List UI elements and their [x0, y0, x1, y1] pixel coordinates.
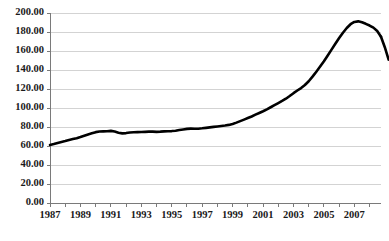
y-axis-tick-label: 20.00: [20, 177, 44, 188]
chart-container: 0.0020.0040.0060.0080.00100.00120.00140.…: [0, 0, 389, 241]
tickmarks-group: [47, 13, 370, 207]
y-axis-tick-label: 0.00: [26, 196, 44, 207]
x-axis-tick-label: 2005: [313, 209, 334, 220]
y-axis-tick-label: 140.00: [15, 63, 44, 74]
x-axis-tick-label: 1999: [222, 209, 243, 220]
x-axis-labels-group: 1987198919911993199519971999200120032005…: [40, 209, 365, 220]
y-axis-tick-label: 200.00: [15, 6, 44, 17]
y-axis-tick-label: 60.00: [20, 139, 44, 150]
x-axis-tick-label: 2007: [344, 209, 365, 220]
x-axis-tick-label: 1997: [192, 209, 213, 220]
gridlines-group: [50, 13, 381, 184]
y-axis-tick-label: 160.00: [15, 44, 44, 55]
y-axis-tick-label: 100.00: [15, 101, 44, 112]
series-group: [50, 21, 389, 145]
y-axis-labels-group: 0.0020.0040.0060.0080.00100.00120.00140.…: [15, 6, 44, 207]
x-axis-tick-label: 1989: [70, 209, 91, 220]
x-axis-tick-label: 1987: [40, 209, 61, 220]
y-axis-tick-label: 120.00: [15, 82, 44, 93]
line-chart: 0.0020.0040.0060.0080.00100.00120.00140.…: [0, 0, 389, 241]
y-axis-tick-label: 180.00: [15, 25, 44, 36]
x-axis-tick-label: 1993: [131, 209, 152, 220]
x-axis-tick-label: 2001: [253, 209, 274, 220]
y-axis-tick-label: 80.00: [20, 120, 44, 131]
x-axis-tick-label: 1995: [161, 209, 182, 220]
x-axis-tick-label: 2003: [283, 209, 304, 220]
data-series-line: [381, 37, 389, 60]
data-series-line: [50, 21, 381, 145]
x-axis-tick-label: 1991: [100, 209, 121, 220]
y-axis-tick-label: 40.00: [20, 158, 44, 169]
